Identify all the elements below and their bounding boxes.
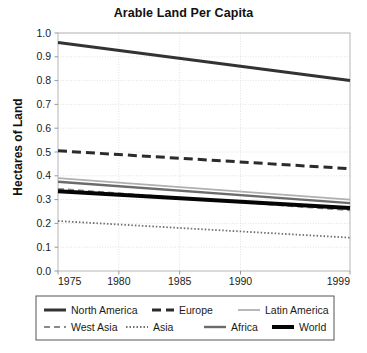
x-tick-label: 1980	[107, 275, 131, 287]
legend-label-north-america: North America	[71, 304, 138, 316]
legend-label-asia: Asia	[153, 321, 174, 333]
x-tick-label: 1985	[168, 275, 192, 287]
x-tick-label: 1999	[327, 275, 351, 287]
y-tick-label: 0.0	[36, 265, 51, 277]
data-series-group	[58, 43, 350, 238]
y-tick-label: 0.5	[36, 146, 51, 158]
y-tick-label: 0.4	[36, 169, 51, 181]
series-line-europe	[58, 151, 350, 169]
y-tick-label: 0.2	[36, 217, 51, 229]
chart-figure: Arable Land Per Capita Hectares of Land …	[0, 0, 367, 353]
y-tick-label: 0.6	[36, 122, 51, 134]
series-line-latin-america	[58, 178, 350, 199]
series-line-north-america	[58, 43, 350, 81]
x-tick-label: 1990	[229, 275, 253, 287]
y-tick-label: 0.3	[36, 193, 51, 205]
line-chart-plot: 0.00.10.20.30.40.50.60.70.80.91.0 197519…	[0, 0, 367, 353]
legend-label-africa: Africa	[231, 321, 258, 333]
legend-label-europe: Europe	[179, 304, 213, 316]
y-tick-label: 0.9	[36, 50, 51, 62]
y-tick-label: 0.8	[36, 74, 51, 86]
x-axis-ticks: 19751980198519901999	[58, 271, 350, 287]
chart-legend: North AmericaEuropeLatin AmericaWest Asi…	[36, 296, 334, 340]
y-tick-label: 1.0	[36, 27, 51, 39]
y-axis-ticks: 0.00.10.20.30.40.50.60.70.80.91.0	[36, 27, 58, 277]
legend-label-world: World	[299, 321, 326, 333]
y-tick-label: 0.7	[36, 98, 51, 110]
legend-label-latin-america: Latin America	[265, 304, 329, 316]
y-axis-label: Hectares of Land	[11, 67, 25, 227]
legend-label-west-asia: West Asia	[71, 321, 118, 333]
legend-box	[36, 296, 334, 340]
chart-title: Arable Land Per Capita	[0, 6, 367, 20]
x-tick-label: 1975	[58, 275, 82, 287]
y-tick-label: 0.1	[36, 241, 51, 253]
